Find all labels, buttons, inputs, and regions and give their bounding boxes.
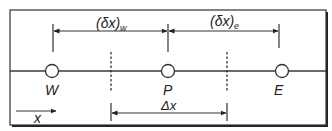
dx-w-label: (δx)w <box>96 16 127 33</box>
node-P-circle <box>162 65 175 78</box>
node-P-label: P <box>163 83 172 97</box>
node-E-circle <box>276 65 289 78</box>
dx-e-label-main: (δx) <box>210 13 234 29</box>
node-W-label: W <box>45 83 58 97</box>
dx-e-label: (δx)e <box>210 14 239 31</box>
Dx-label: Δx <box>161 99 176 112</box>
dx-e-label-sub: e <box>234 21 239 31</box>
dx-w-label-main: (δx) <box>96 15 120 31</box>
node-W-circle <box>46 65 59 78</box>
x-axis-label: x <box>34 111 41 125</box>
dx-w-label-sub: w <box>120 23 127 33</box>
node-E-label: E <box>274 83 283 97</box>
grid-diagram: (δx)w (δx)e W P E Δx x <box>0 0 332 131</box>
